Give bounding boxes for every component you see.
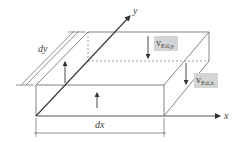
x-axis-label: x [223,110,229,121]
v-ed-x-label: vEd,x [194,73,218,88]
plate-element-diagram: x y dx dy vEd,y vEd,x [0,0,242,142]
v-ed-y-label: vEd,y [154,36,178,51]
y-axis-label: y [132,5,138,16]
y-axis [36,16,130,116]
dy-dimension [16,31,86,85]
dy-label: dy [38,43,48,54]
box-outline [36,32,209,116]
dx-label: dx [95,119,105,130]
hidden-edges [88,32,209,61]
